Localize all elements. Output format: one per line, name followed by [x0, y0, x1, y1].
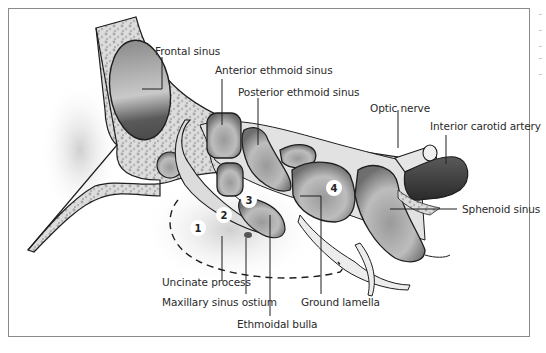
label-interior-carotid-artery: Interior carotid artery: [430, 120, 541, 132]
label-maxillary-sinus-ostium: Maxillary sinus ostium: [162, 296, 277, 308]
label-posterior-ethmoid-sinus: Posterior ethmoid sinus: [238, 86, 359, 98]
edge-mark: [539, 74, 542, 75]
edge-mark: [539, 14, 542, 15]
label-anterior-ethmoid-sinus: Anterior ethmoid sinus: [215, 64, 333, 76]
label-ground-lamella: Ground lamella: [301, 296, 380, 308]
marker-4: 4: [326, 180, 342, 196]
marker-3: 3: [241, 192, 257, 208]
marker-2: 2: [216, 207, 232, 223]
marker-1: 1: [190, 220, 206, 236]
label-optic-nerve: Optic nerve: [370, 102, 430, 114]
label-ethmoidal-bulla: Ethmoidal bulla: [237, 318, 317, 330]
label-uncinate-process: Uncinate process: [162, 276, 251, 288]
svg-text:4: 4: [331, 183, 338, 194]
edge-mark: [539, 46, 542, 47]
svg-text:2: 2: [221, 210, 228, 221]
label-sphenoid-sinus: Sphenoid sinus: [462, 203, 540, 215]
edge-mark: [539, 58, 542, 59]
svg-text:3: 3: [246, 195, 253, 206]
edge-mark: [539, 30, 542, 31]
label-frontal-sinus: Frontal sinus: [155, 45, 220, 57]
svg-text:1: 1: [195, 223, 202, 234]
